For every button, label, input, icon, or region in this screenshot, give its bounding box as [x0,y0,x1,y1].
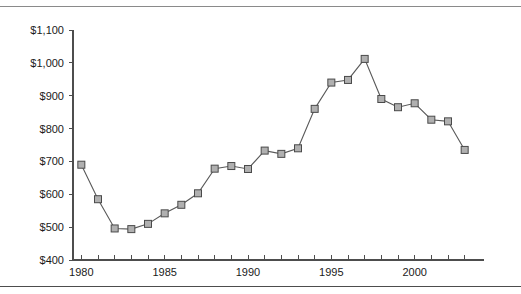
data-point-marker [461,146,468,153]
figure-bottom-rule [0,286,521,287]
data-point-marker [428,116,435,123]
data-point-marker [261,147,268,154]
data-point-marker [178,201,185,208]
y-axis-tick-label: $700 [40,155,64,167]
data-point-marker [295,145,302,152]
series-markers [78,55,468,232]
y-axis-tick-label: $800 [40,123,64,135]
x-axis-tick-label: 1980 [69,266,93,278]
data-point-marker [111,225,118,232]
y-axis-tick-labels: $400$500$600$700$800$900$1,000$1,100 [30,24,64,266]
x-axis-tick-marks [81,255,464,260]
data-point-marker [311,105,318,112]
data-point-marker [361,55,368,62]
data-point-marker [128,226,135,233]
data-point-marker [395,104,402,111]
y-axis-tick-marks [69,30,73,260]
data-point-marker [345,76,352,83]
data-point-marker [378,96,385,103]
x-axis-tick-label: 2000 [402,266,426,278]
figure-frame: $400$500$600$700$800$900$1,000$1,100 198… [0,0,521,294]
data-point-marker [78,161,85,168]
data-point-marker [228,163,235,170]
y-axis-tick-label: $600 [40,188,64,200]
y-axis-tick-label: $1,100 [30,24,64,36]
data-point-marker [161,210,168,217]
data-point-marker [145,220,152,227]
x-axis-tick-label: 1995 [319,266,343,278]
x-axis-tick-label: 1990 [236,266,260,278]
data-point-marker [245,165,252,172]
data-point-marker [328,79,335,86]
series-line [81,59,464,229]
data-point-marker [411,100,418,107]
line-chart: $400$500$600$700$800$900$1,000$1,100 198… [0,8,521,286]
data-point-marker [195,190,202,197]
figure-top-rule [0,6,521,7]
y-axis-tick-label: $900 [40,90,64,102]
data-point-marker [278,150,285,157]
y-axis-tick-label: $400 [40,254,64,266]
y-axis-tick-label: $500 [40,221,64,233]
data-point-marker [445,118,452,125]
data-point-marker [211,165,218,172]
x-axis-tick-labels: 19801985199019952000 [69,266,427,278]
x-axis-tick-label: 1985 [152,266,176,278]
y-axis-tick-label: $1,000 [30,57,64,69]
data-point-marker [95,196,102,203]
